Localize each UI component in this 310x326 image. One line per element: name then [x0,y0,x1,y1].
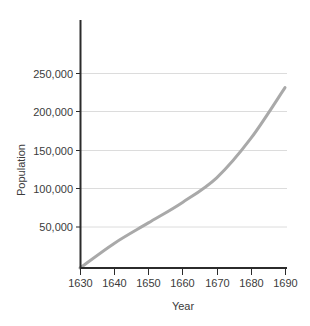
y-tick-label-100000: 100,000 [33,183,73,195]
gridlines [80,74,287,228]
x-axis-title: Year [172,300,195,312]
y-tick-label-200000: 200,000 [33,106,73,118]
x-tick-labels: 1630 1640 1650 1660 1670 1680 1690 [68,277,297,289]
y-tick-labels: 50,000 100,000 150,000 200,000 250,000 [33,68,73,234]
population-line-chart: 50,000 100,000 150,000 200,000 250,000 1… [0,0,310,326]
y-tick-label-50000: 50,000 [39,221,73,233]
x-tick-label-1680: 1680 [239,277,263,289]
x-tick-label-1690: 1690 [273,277,297,289]
y-axis-title: Population [15,144,27,196]
x-tick-label-1650: 1650 [136,277,160,289]
y-axis-ticks [76,74,80,228]
x-tick-label-1660: 1660 [170,277,194,289]
x-tick-label-1670: 1670 [205,277,229,289]
y-tick-label-150000: 150,000 [33,145,73,157]
chart-canvas: 50,000 100,000 150,000 200,000 250,000 1… [0,0,310,326]
y-tick-label-250000: 250,000 [33,68,73,80]
x-tick-label-1640: 1640 [102,277,126,289]
x-axis-ticks [81,268,286,275]
population-series-line [80,88,285,268]
x-tick-label-1630: 1630 [68,277,92,289]
